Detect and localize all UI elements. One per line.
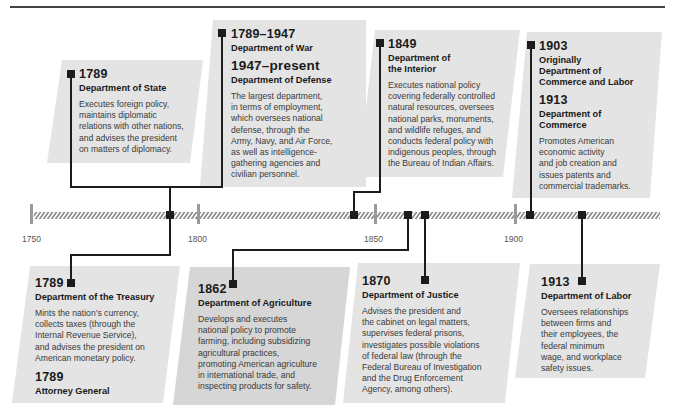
tick-1850: [374, 204, 377, 224]
axis-label-1850: 1850: [364, 234, 383, 244]
card-dept: Department of Labor: [541, 291, 666, 302]
anchor-interior: [376, 39, 384, 47]
card-year-2: 1913: [539, 93, 664, 107]
marker-1849: [350, 211, 358, 219]
card-agriculture: 1862 Department of Agriculture Develops …: [198, 282, 353, 392]
tick-1750: [30, 204, 33, 224]
card-desc: Mints the nation’s currency,collects tax…: [35, 308, 185, 364]
card-year: 1789: [79, 67, 204, 81]
card-commerce: 1903 OriginallyDepartment ofCommerce and…: [539, 39, 664, 192]
card-dept: OriginallyDepartment ofCommerce and Labo…: [539, 55, 664, 88]
anchor-defense: [218, 29, 226, 37]
card-year: 1789: [35, 276, 185, 290]
card-state: 1789 Department of State Executes foreig…: [79, 67, 204, 155]
tick-1800: [197, 204, 200, 224]
anchor-state: [67, 70, 75, 78]
marker-1870: [421, 211, 429, 219]
axis-label-1900: 1900: [504, 234, 523, 244]
marker-1913: [578, 211, 586, 219]
card-year: 1913: [541, 275, 666, 289]
card-desc: Develops and executesnational policy to …: [198, 314, 353, 392]
marker-1789: [166, 211, 174, 219]
card-year-2: 1947–present: [231, 59, 371, 73]
card-labor: 1913 Department of Labor Oversees relati…: [541, 275, 666, 374]
card-desc: Executes national policycovering federal…: [388, 80, 523, 170]
axis-label-1800: 1800: [188, 234, 207, 244]
card-dept: Department of State: [79, 83, 204, 94]
card-treasury: 1789 Department of the Treasury Mints th…: [35, 276, 185, 397]
card-dept: Department of War: [231, 43, 371, 54]
card-desc: The largest department,in terms of emplo…: [231, 91, 371, 181]
card-desc: Oversees relationshipsbetween firms andt…: [541, 307, 666, 374]
card-justice: 1870 Department of Justice Advises the p…: [362, 274, 522, 396]
card-dept: Department of Agriculture: [198, 298, 353, 309]
card-dept: Department ofthe Interior: [388, 53, 523, 75]
card-desc: Executes foreign policy,maintains diplom…: [79, 99, 204, 155]
axis-label-1750: 1750: [22, 234, 41, 244]
card-interior: 1849 Department ofthe Interior Executes …: [388, 37, 523, 170]
tick-1900: [514, 204, 517, 224]
card-year: 1789–1947: [231, 27, 371, 41]
card-desc: Promotes Americaneconomic activityand jo…: [539, 136, 664, 192]
card-year: 1870: [362, 274, 522, 288]
card-year: 1903: [539, 39, 664, 53]
card-year: 1862: [198, 282, 353, 296]
card-year: 1849: [388, 37, 523, 51]
card-dept: Department of the Treasury: [35, 292, 185, 303]
marker-1862: [404, 211, 412, 219]
card-dept: Department of Justice: [362, 290, 522, 301]
card-dept-2: Attorney General: [35, 386, 185, 397]
card-year-2: 1789: [35, 370, 185, 384]
card-dept-2: Department ofCommerce: [539, 109, 664, 131]
card-dept-2: Department of Defense: [231, 75, 371, 86]
marker-1903: [526, 211, 534, 219]
anchor-commerce: [527, 41, 535, 49]
timeline-bar: [34, 212, 660, 219]
card-desc: Advises the president andthe cabinet on …: [362, 306, 522, 396]
card-defense: 1789–1947 Department of War 1947–present…: [231, 27, 371, 181]
